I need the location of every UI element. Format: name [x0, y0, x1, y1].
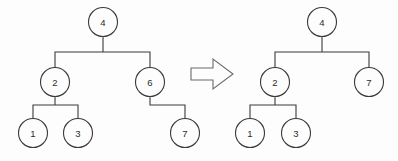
tree-node-1[interactable]: 1	[236, 119, 265, 148]
tree-before: 426137	[19, 8, 200, 148]
tree-node-4[interactable]: 4	[308, 8, 337, 37]
diagram-canvas: 426137 42713	[0, 0, 398, 161]
edge-6-to-7	[150, 99, 185, 119]
node-label-7: 7	[182, 128, 187, 139]
tree-node-4[interactable]: 4	[89, 8, 118, 37]
node-label-1: 1	[30, 128, 35, 139]
node-label-6: 6	[147, 77, 152, 88]
tree-node-3[interactable]: 3	[282, 119, 311, 148]
node-label-4: 4	[319, 17, 324, 28]
tree-node-1[interactable]: 1	[19, 119, 48, 148]
tree-node-7[interactable]: 7	[171, 119, 200, 148]
node-label-2: 2	[272, 77, 277, 88]
transform-arrow-group	[191, 59, 233, 89]
tree-after: 42713	[236, 8, 384, 148]
edge-2-to-1-3	[33, 99, 78, 119]
tree-node-3[interactable]: 3	[64, 119, 93, 148]
tree-node-6[interactable]: 6	[136, 68, 165, 97]
edge-2-to-1-3	[250, 99, 296, 119]
edge-4-to-2-6	[55, 39, 150, 68]
node-label-3: 3	[293, 128, 298, 139]
tree-transformation-diagram: 426137 42713	[0, 0, 398, 161]
node-label-2: 2	[52, 77, 57, 88]
edge-4-to-2-7	[275, 39, 369, 68]
node-label-4: 4	[100, 17, 105, 28]
node-label-7: 7	[366, 77, 371, 88]
node-label-1: 1	[247, 128, 252, 139]
node-label-3: 3	[75, 128, 80, 139]
transform-arrow	[191, 59, 233, 89]
tree-node-2[interactable]: 2	[41, 68, 70, 97]
tree-node-2[interactable]: 2	[261, 68, 290, 97]
tree-node-7[interactable]: 7	[355, 68, 384, 97]
